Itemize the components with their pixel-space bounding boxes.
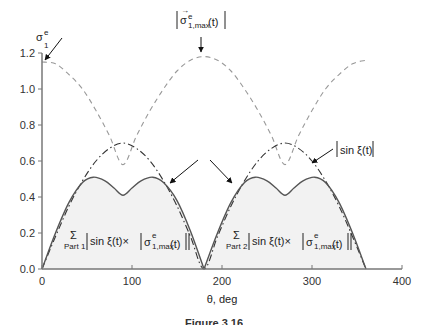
svg-text:sin ξ(t)×: sin ξ(t)×	[252, 235, 291, 247]
svg-text:e: e	[314, 231, 319, 240]
svg-text:(t): (t)	[170, 238, 180, 250]
y-tick-label: 0.8	[20, 119, 35, 131]
chart: 0.00.20.40.60.81.01.2 0100200300400 θ, d…	[0, 0, 429, 325]
sigma-max-label: σ → e 1,max (t)	[177, 6, 225, 30]
x-axis: 0100200300400	[39, 265, 411, 287]
y-tick-label: 0.0	[20, 263, 35, 275]
svg-text:Σ: Σ	[70, 229, 77, 241]
arrow-part2-curve	[210, 160, 232, 183]
area-fill-part2	[204, 177, 366, 269]
arrow-sin-xi	[312, 149, 333, 163]
svg-text:σ: σ	[306, 236, 313, 248]
area-fill-part1	[42, 177, 204, 269]
svg-text:Part 2: Part 2	[226, 242, 248, 251]
svg-text:sin ξ(t)×: sin ξ(t)×	[90, 235, 129, 247]
y-axis: 0.00.20.40.60.81.01.2	[20, 47, 42, 275]
x-tick-label: 0	[39, 275, 45, 287]
svg-text:σ: σ	[144, 236, 151, 248]
area-fills	[42, 177, 366, 269]
x-axis-title: θ, deg	[207, 293, 238, 305]
y-tick-label: 0.6	[20, 155, 35, 167]
svg-text:e: e	[188, 12, 193, 21]
y-tick-label: 0.4	[20, 191, 35, 203]
svg-text:Part 1: Part 1	[64, 242, 86, 251]
y-tick-label: 0.2	[20, 227, 35, 239]
sin-xi-label: sin ξ(t)	[337, 141, 373, 157]
x-tick-label: 400	[393, 275, 411, 287]
svg-text:Σ: Σ	[233, 229, 240, 241]
svg-text:e: e	[152, 231, 157, 240]
svg-text:σ: σ	[180, 14, 187, 26]
svg-text:1: 1	[44, 41, 49, 50]
figure-caption: Figure 3.16	[185, 313, 243, 325]
svg-text:1,max: 1,max	[188, 21, 210, 30]
x-tick-label: 300	[303, 275, 321, 287]
svg-text:(t): (t)	[332, 238, 342, 250]
y-tick-label: 1.2	[20, 47, 35, 59]
y-axis-symbol: σ e 1	[36, 28, 49, 50]
y-tick-label: 1.0	[20, 83, 35, 95]
series-sigma-max	[42, 57, 366, 165]
x-tick-label: 200	[213, 275, 231, 287]
svg-text:sin ξ(t): sin ξ(t)	[340, 144, 372, 156]
svg-text:(t): (t)	[208, 16, 218, 28]
x-tick-label: 100	[123, 275, 141, 287]
svg-text:e: e	[44, 28, 49, 37]
arrow-part1-curve	[170, 160, 198, 183]
svg-text:σ: σ	[36, 31, 43, 43]
